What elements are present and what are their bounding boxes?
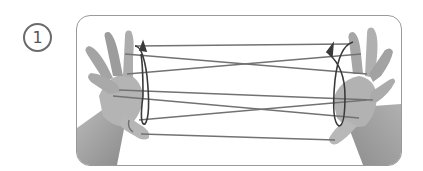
cats-cradle-illustration [77,16,401,165]
illustration-frame [76,15,402,166]
step-number-badge: 1 [23,23,52,52]
right-hand [329,28,401,165]
step-number: 1 [32,30,42,46]
